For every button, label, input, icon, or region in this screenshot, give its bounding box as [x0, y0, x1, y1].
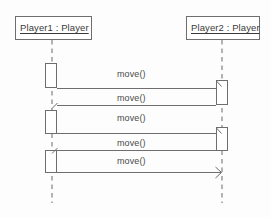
activation-player2-2[interactable]: [217, 128, 228, 151]
participant-label-player2: Player2 : Player: [191, 22, 260, 33]
message-arrowhead-2: [52, 103, 58, 109]
participant-player1[interactable]: [16, 17, 92, 204]
sequence-diagram-canvas: Player1 : Player Player2 : Player move()…: [0, 0, 271, 217]
message-arrow-4[interactable]: [52, 148, 216, 154]
message-label-1: move(): [117, 69, 146, 79]
message-arrow-5[interactable]: [57, 167, 222, 178]
message-label-2: move(): [117, 93, 146, 103]
participant-label-player1: Player1 : Player: [20, 22, 89, 33]
message-label-3: move(): [117, 113, 146, 123]
activation-player1-2[interactable]: [46, 111, 57, 134]
participant-player2[interactable]: [187, 17, 260, 204]
message-arrow-3[interactable]: [57, 128, 222, 134]
message-label-4: move(): [117, 138, 146, 148]
activation-player1-1[interactable]: [46, 64, 57, 88]
message-arrow-2[interactable]: [52, 103, 216, 109]
message-label-5: move(): [117, 156, 146, 166]
activation-player1-3[interactable]: [46, 151, 57, 173]
message-arrow-1[interactable]: [57, 81, 222, 89]
activation-player2-1[interactable]: [217, 81, 228, 105]
